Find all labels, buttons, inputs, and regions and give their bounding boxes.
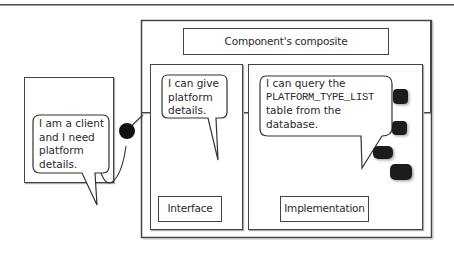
implementation-speech-text: I can query the PLATFORM_TYPE_LIST table… bbox=[266, 77, 374, 131]
table-name: PLATFORM_TYPE_LIST bbox=[266, 91, 374, 105]
database-icon bbox=[392, 121, 407, 135]
ball-icon bbox=[119, 123, 135, 139]
interface-speech-line: details. bbox=[168, 104, 219, 118]
client-speech-text: I am a client and I need platform detail… bbox=[39, 117, 104, 171]
implementation-speech-line: I can query the bbox=[266, 77, 374, 91]
implementation-speech-line: database. bbox=[266, 118, 374, 132]
database-icon bbox=[373, 146, 393, 159]
interface-speech-line: I can give bbox=[168, 77, 219, 91]
interface-speech-line: platform bbox=[168, 91, 219, 105]
database-icon bbox=[390, 164, 412, 180]
implementation-speech-line: table from the bbox=[266, 104, 374, 118]
database-icon bbox=[393, 89, 408, 104]
client-speech-line: details. bbox=[39, 158, 104, 172]
client-speech-line: platform bbox=[39, 144, 104, 158]
client-speech-line: I am a client bbox=[39, 117, 104, 131]
interface-speech-text: I can give platform details. bbox=[168, 77, 219, 118]
client-speech-line: and I need bbox=[39, 131, 104, 145]
